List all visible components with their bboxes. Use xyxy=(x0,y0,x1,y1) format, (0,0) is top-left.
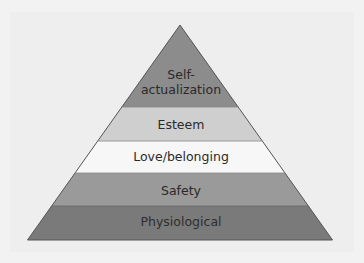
label-love-belonging: Love/belonging xyxy=(133,149,229,164)
label-actualization: actualization xyxy=(141,82,221,97)
maslow-pyramid: Self- actualization Esteem Love/belongin… xyxy=(0,0,364,263)
label-physiological: Physiological xyxy=(140,214,221,229)
label-esteem: Esteem xyxy=(158,117,205,132)
label-self: Self- xyxy=(167,67,194,82)
label-safety: Safety xyxy=(161,183,202,198)
